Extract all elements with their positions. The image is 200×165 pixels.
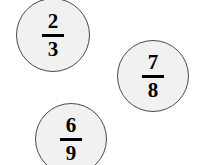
- fraction-denominator: 3: [48, 39, 59, 60]
- fraction-numerator: 7: [148, 52, 159, 74]
- fraction-denominator: 9: [66, 143, 77, 164]
- fraction-circle-six-ninths[interactable]: 6 9: [35, 103, 107, 165]
- fraction-numerator: 6: [66, 115, 77, 137]
- fraction-numerator: 2: [48, 11, 59, 33]
- fraction-six-ninths: 6 9: [60, 115, 82, 164]
- fraction-circle-two-thirds[interactable]: 2 3: [16, 0, 90, 72]
- fraction-two-thirds: 2 3: [42, 11, 64, 60]
- fraction-seven-eighths: 7 8: [142, 52, 164, 101]
- fraction-circles-canvas: 2 3 7 8 6 9: [0, 0, 200, 165]
- fraction-denominator: 8: [148, 80, 159, 101]
- fraction-circle-seven-eighths[interactable]: 7 8: [117, 40, 189, 112]
